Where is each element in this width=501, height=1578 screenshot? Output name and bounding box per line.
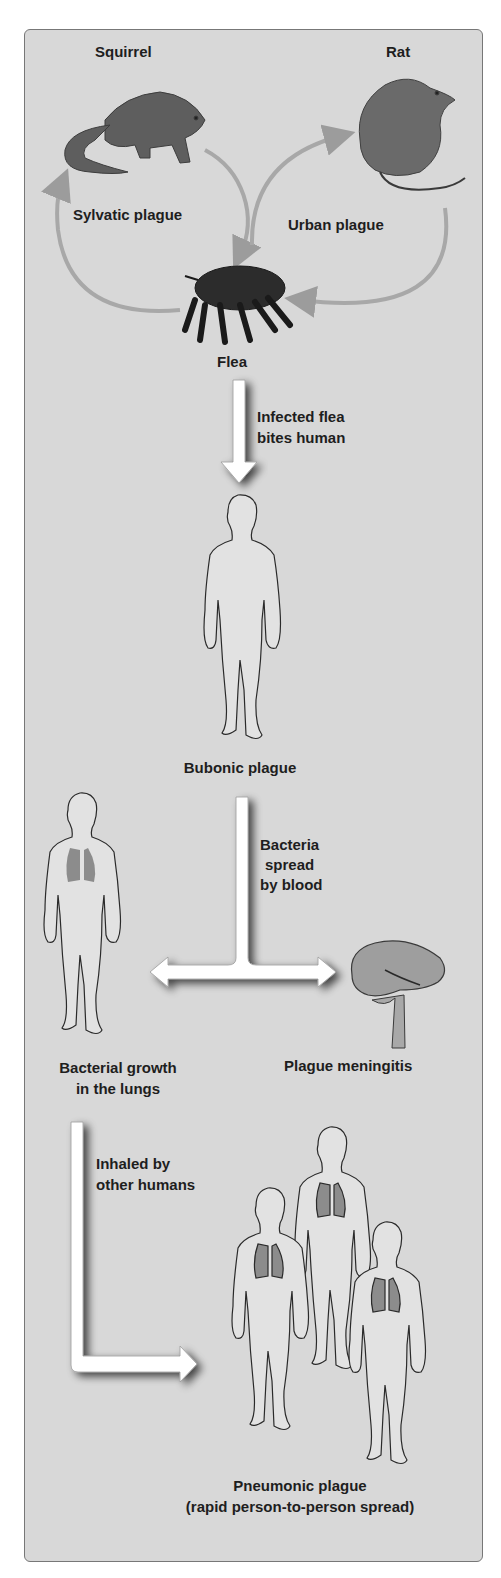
rat-icon — [359, 79, 465, 189]
pneumonic-plague-label: Pneumonic plague (rapid person-to-person… — [130, 1475, 470, 1517]
lung-left-icon — [66, 848, 80, 882]
lung-growth-label-line1: Bacterial growth — [28, 1057, 208, 1078]
pneumonic-plague-label-line1: Pneumonic plague — [130, 1475, 470, 1496]
squirrel-label: Squirrel — [95, 41, 152, 62]
flea-icon — [185, 266, 290, 342]
blood-spread-label-line2: spread — [260, 855, 323, 875]
human-bubonic-icon — [204, 495, 281, 739]
blood-spread-label-line1: Bacteria — [260, 835, 323, 855]
blood-spread-label: Bacteria spread by blood — [260, 835, 323, 895]
flea-bite-label: Infected flea bites human — [257, 406, 345, 448]
inhaled-label: Inhaled by other humans — [96, 1153, 195, 1195]
lung-growth-label: Bacterial growth in the lungs — [28, 1057, 208, 1099]
brain-icon — [351, 941, 444, 1048]
blood-spread-label-line3: by blood — [260, 875, 323, 895]
humans-pneumonic-group — [232, 1127, 426, 1464]
pneumonic-plague-label-line2: (rapid person-to-person spread) — [130, 1496, 470, 1517]
inhaled-label-line2: other humans — [96, 1174, 195, 1195]
flea-bite-arrow — [221, 380, 257, 483]
bubonic-plague-label: Bubonic plague — [140, 757, 340, 778]
flea-bite-label-line2: bites human — [257, 427, 345, 448]
lung-growth-label-line2: in the lungs — [28, 1078, 208, 1099]
flea-bite-label-line1: Infected flea — [257, 406, 345, 427]
urban-plague-label: Urban plague — [288, 214, 384, 235]
squirrel-icon — [65, 92, 205, 174]
inhaled-label-line1: Inhaled by — [96, 1153, 195, 1174]
sylvatic-plague-label: Sylvatic plague — [73, 204, 182, 225]
diagram-artwork — [0, 0, 501, 1578]
flea-label: Flea — [217, 351, 247, 372]
plague-meningitis-label: Plague meningitis — [284, 1055, 412, 1076]
rat-label: Rat — [386, 41, 410, 62]
cropped-caption-fragment: ​ — [0, 1566, 501, 1578]
human-lungs-icon — [44, 793, 121, 1034]
